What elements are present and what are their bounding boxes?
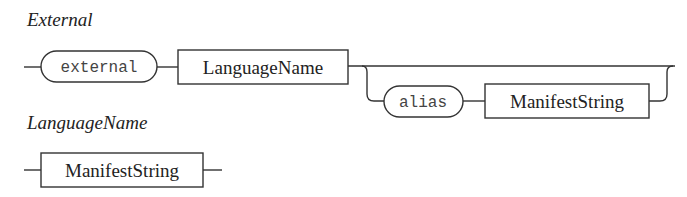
external-rule: external LanguageName alias ManifestStri… xyxy=(24,50,675,118)
nonterminal-manifeststring-label: ManifestString xyxy=(65,160,179,181)
terminal-external: external xyxy=(41,51,157,82)
nonterminal-manifeststring: ManifestString xyxy=(485,84,649,118)
optional-branch-in xyxy=(362,66,384,101)
nonterminal-manifeststring: ManifestString xyxy=(41,153,203,187)
terminal-alias-label: alias xyxy=(399,94,447,112)
syntax-diagram-canvas: external LanguageName alias ManifestStri… xyxy=(0,0,687,197)
nonterminal-manifeststring-label: ManifestString xyxy=(510,91,624,112)
terminal-alias: alias xyxy=(384,86,463,117)
terminal-external-label: external xyxy=(61,59,138,77)
optional-branch-out xyxy=(649,66,673,101)
languagename-rule: ManifestString xyxy=(24,153,222,187)
nonterminal-languagename: LanguageName xyxy=(178,50,348,84)
nonterminal-languagename-label: LanguageName xyxy=(203,57,323,78)
